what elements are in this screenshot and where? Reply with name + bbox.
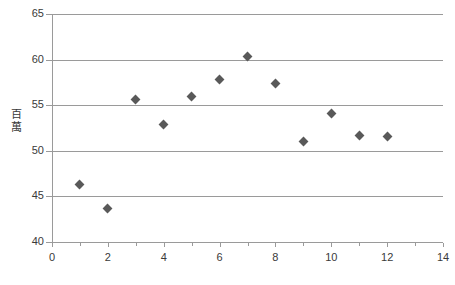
x-tick-label-8: 8 [262,251,288,263]
y-tick-55 [46,105,52,106]
gridline-y-50 [52,151,443,152]
x-minor-tick-1 [80,243,81,246]
x-tick-2 [108,243,109,247]
y-tick-50 [46,151,52,152]
gridline-y-55 [52,105,443,106]
y-tick-60 [46,60,52,61]
y-tick-label-65: 65 [20,7,44,19]
x-tick-8 [275,243,276,247]
y-tick-45 [46,196,52,197]
x-minor-tick-9 [303,243,304,246]
x-tick-label-4: 4 [151,251,177,263]
y-tick-label-40: 40 [20,235,44,247]
y-tick-label-45: 45 [20,189,44,201]
x-minor-tick-3 [136,243,137,246]
x-tick-label-14: 14 [430,251,455,263]
x-tick-label-10: 10 [318,251,344,263]
x-tick-label-0: 0 [39,251,65,263]
x-minor-tick-13 [415,243,416,246]
y-tick-label-60: 60 [20,53,44,65]
y-tick-65 [46,14,52,15]
scatter-chart: 百萬 404550556065 02468101214 [0,0,455,285]
y-tick-label-50: 50 [20,144,44,156]
x-tick-0 [52,243,53,247]
y-axis-title: 百萬 [6,108,26,134]
x-tick-14 [443,243,444,247]
x-minor-tick-7 [248,243,249,246]
x-minor-tick-11 [359,243,360,246]
x-tick-label-6: 6 [207,251,233,263]
gridline-y-45 [52,196,443,197]
x-tick-12 [387,243,388,247]
y-axis-title-char-1: 萬 [6,121,26,134]
gridline-y-65 [52,14,443,15]
x-tick-10 [331,243,332,247]
x-tick-6 [220,243,221,247]
y-axis-line [52,14,53,243]
x-tick-label-12: 12 [374,251,400,263]
x-minor-tick-5 [192,243,193,246]
x-tick-label-2: 2 [95,251,121,263]
x-tick-4 [164,243,165,247]
y-tick-label-55: 55 [20,98,44,110]
